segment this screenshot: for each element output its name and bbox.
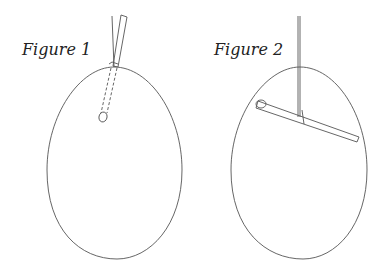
stick-outside-1 [113, 15, 127, 67]
egg-outline-2 [231, 67, 367, 259]
diagram-canvas [0, 0, 386, 273]
stick-inside-dash-left [101, 68, 111, 113]
figure-1 [47, 15, 182, 259]
egg-outline-1 [47, 67, 182, 259]
stick-inside-dash-right [107, 68, 117, 113]
stick-2 [256, 101, 359, 142]
figure-2 [231, 16, 367, 259]
